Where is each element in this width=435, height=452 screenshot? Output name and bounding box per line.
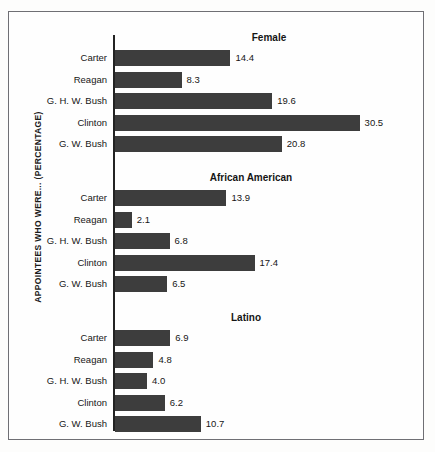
cropped-header-text: FROM THE SHADOWS	[300, 0, 430, 6]
bar	[115, 373, 147, 389]
bar-category-label: Reagan	[9, 72, 107, 88]
bar	[115, 72, 182, 88]
bar-category-label: Carter	[9, 50, 107, 66]
chart-figure: FROM THE SHADOWS APPOINTEES WHO WERE... …	[0, 0, 435, 452]
panel-title: Latino	[231, 312, 261, 323]
bar	[115, 50, 230, 66]
bar-value-label: 17.4	[260, 255, 279, 271]
bar-value-label: 4.0	[152, 373, 165, 389]
bar-category-label: G. W. Bush	[9, 276, 107, 292]
bar	[115, 93, 272, 109]
bar-value-label: 14.4	[235, 50, 254, 66]
bar	[115, 212, 132, 228]
bar-value-label: 8.3	[187, 72, 200, 88]
bar-row: G. W. Bush20.8	[9, 136, 425, 152]
bar	[115, 233, 170, 249]
bar-row: Clinton6.2	[9, 395, 425, 411]
bar-value-label: 6.8	[175, 233, 188, 249]
bar-value-label: 30.5	[365, 115, 384, 131]
bar	[115, 190, 226, 206]
bar-row: Reagan4.8	[9, 352, 425, 368]
bar-row: Reagan2.1	[9, 212, 425, 228]
bar-value-label: 6.2	[170, 395, 183, 411]
panel-title: African American	[210, 172, 292, 183]
bar	[115, 136, 282, 152]
bar-row: Carter6.9	[9, 330, 425, 346]
bar-value-label: 4.8	[158, 352, 171, 368]
bar	[115, 276, 167, 292]
bar-value-label: 10.7	[206, 416, 225, 432]
bar-row: G. H. W. Bush6.8	[9, 233, 425, 249]
bar-category-label: G. H. W. Bush	[9, 373, 107, 389]
bar-value-label: 6.9	[175, 330, 188, 346]
cropped-header-text-label: FROM THE SHADOWS	[300, 0, 405, 2]
bar-category-label: G. W. Bush	[9, 416, 107, 432]
bar-row: Clinton30.5	[9, 115, 425, 131]
bar-row: G. H. W. Bush4.0	[9, 373, 425, 389]
bar-category-label: G. H. W. Bush	[9, 93, 107, 109]
bar-value-label: 19.6	[277, 93, 296, 109]
bar-category-label: G. H. W. Bush	[9, 233, 107, 249]
chart-frame: APPOINTEES WHO WERE... (PERCENTAGE) Fema…	[8, 11, 424, 440]
bar-category-label: Clinton	[9, 255, 107, 271]
bar-row: G. W. Bush10.7	[9, 416, 425, 432]
bar-value-label: 2.1	[137, 212, 150, 228]
bar-row: Carter14.4	[9, 50, 425, 66]
bar-row: Clinton17.4	[9, 255, 425, 271]
bar	[115, 416, 201, 432]
bar	[115, 330, 170, 346]
bar-category-label: Clinton	[9, 395, 107, 411]
bar	[115, 115, 360, 131]
bar	[115, 352, 153, 368]
bar-value-label: 13.9	[231, 190, 250, 206]
bar-value-label: 6.5	[172, 276, 185, 292]
bar-category-label: Reagan	[9, 212, 107, 228]
bar-category-label: Carter	[9, 190, 107, 206]
bar-category-label: Clinton	[9, 115, 107, 131]
bar-category-label: G. W. Bush	[9, 136, 107, 152]
bar	[115, 255, 255, 271]
bar-category-label: Carter	[9, 330, 107, 346]
bar	[115, 395, 165, 411]
bar-category-label: Reagan	[9, 352, 107, 368]
bar-value-label: 20.8	[287, 136, 306, 152]
bar-row: Carter13.9	[9, 190, 425, 206]
bar-row: Reagan8.3	[9, 72, 425, 88]
bar-row: G. H. W. Bush19.6	[9, 93, 425, 109]
panel-title: Female	[252, 32, 286, 43]
bar-row: G. W. Bush6.5	[9, 276, 425, 292]
